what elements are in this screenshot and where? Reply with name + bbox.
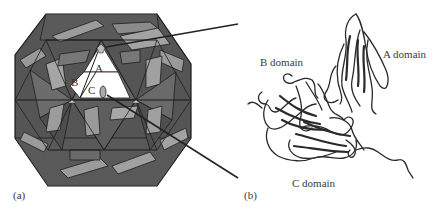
panel-a-label: (a)	[13, 189, 25, 201]
label-c-domain: C domain	[292, 177, 335, 189]
panel-a-capsid: A B C (a)	[0, 0, 240, 212]
panel-b-ribbon: B domain A domain C domain (b)	[238, 0, 438, 212]
label-a-domain: A domain	[383, 48, 426, 60]
protein-ribbon-structure	[238, 0, 438, 212]
subunit-label-b: B	[71, 76, 78, 88]
twofold-axis-marker	[100, 86, 106, 98]
panel-b-label: (b)	[244, 189, 257, 201]
capsid-diagram: A B C	[0, 0, 240, 212]
subunit-label-a: A	[95, 62, 103, 74]
subunit-label-c: C	[88, 84, 95, 96]
label-b-domain: B domain	[260, 56, 303, 68]
